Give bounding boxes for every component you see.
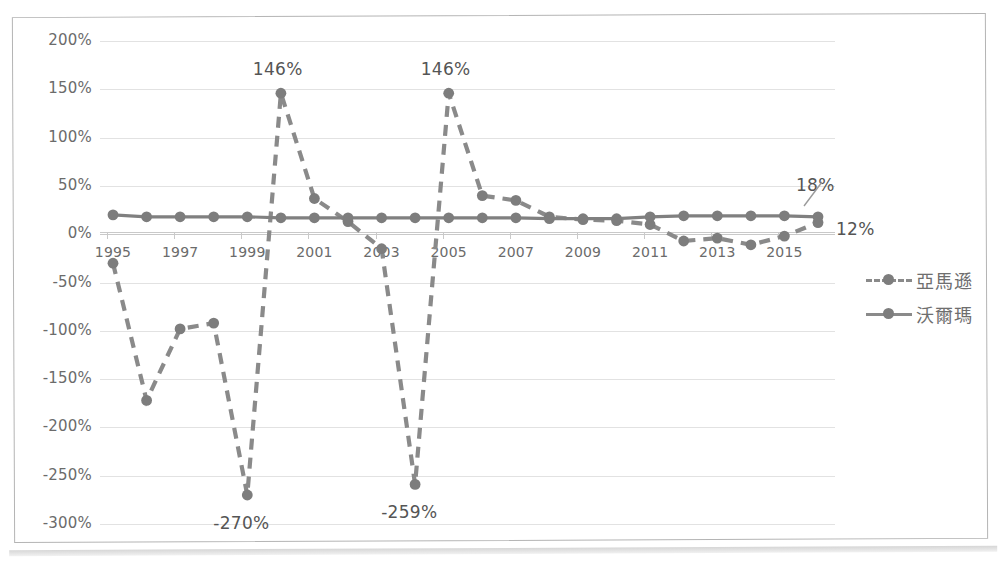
callout-leader-line	[796, 182, 822, 208]
data-point	[276, 88, 287, 99]
chart-legend: 亞馬遜沃爾瑪	[866, 263, 986, 331]
legend-item-amazon[interactable]: 亞馬遜	[866, 263, 986, 297]
data-point	[108, 258, 119, 269]
data-point	[276, 212, 287, 223]
data-point	[443, 88, 454, 99]
data-point	[175, 211, 186, 222]
data-point	[511, 212, 522, 223]
data-point	[309, 212, 320, 223]
data-label: -259%	[381, 502, 437, 522]
legend-label: 亞馬遜	[916, 267, 973, 293]
data-point	[410, 479, 421, 490]
data-point	[343, 212, 354, 223]
data-point	[309, 193, 320, 204]
legend-key-icon	[866, 307, 912, 321]
data-point	[141, 395, 152, 406]
data-point	[477, 190, 488, 201]
data-point	[678, 236, 689, 247]
data-point	[611, 213, 622, 224]
data-point	[779, 231, 790, 242]
data-point	[477, 212, 488, 223]
data-point	[578, 213, 589, 224]
data-point	[511, 195, 522, 206]
data-point	[746, 210, 757, 221]
data-point	[443, 212, 454, 223]
chart-page: 200%150%100%50%0%-50%-100%-150%-200%-250…	[0, 0, 1007, 561]
data-point	[141, 211, 152, 222]
data-point	[208, 318, 219, 329]
data-point	[746, 239, 757, 250]
data-point	[410, 212, 421, 223]
data-point	[376, 243, 387, 254]
data-point	[712, 210, 723, 221]
data-point	[108, 210, 119, 221]
data-point	[208, 211, 219, 222]
data-point	[242, 490, 253, 501]
legend-label: 沃爾瑪	[916, 301, 973, 327]
data-point	[712, 233, 723, 244]
data-label: 146%	[253, 59, 303, 79]
data-point	[175, 324, 186, 335]
data-point	[376, 212, 387, 223]
data-point	[242, 211, 253, 222]
series-walmart	[108, 210, 824, 225]
data-point	[779, 210, 790, 221]
data-label: 12%	[836, 219, 875, 239]
chart-plot-area: 200%150%100%50%0%-50%-100%-150%-200%-250…	[0, 0, 1007, 561]
data-label: -270%	[213, 513, 269, 533]
series-line	[113, 93, 818, 495]
series-amazon	[108, 88, 824, 501]
data-point	[645, 211, 656, 222]
data-label: 146%	[421, 59, 471, 79]
series-plot	[0, 0, 1007, 561]
legend-item-walmart[interactable]: 沃爾瑪	[866, 297, 986, 331]
data-point	[813, 211, 824, 222]
data-point	[544, 213, 555, 224]
legend-key-icon	[866, 273, 912, 287]
data-point	[678, 210, 689, 221]
